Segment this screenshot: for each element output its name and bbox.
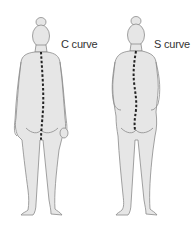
figure-c-curve bbox=[14, 18, 68, 216]
scoliosis-diagram bbox=[0, 0, 196, 236]
s-curve-label: S curve bbox=[154, 38, 190, 50]
c-curve-label: C curve bbox=[61, 38, 98, 50]
